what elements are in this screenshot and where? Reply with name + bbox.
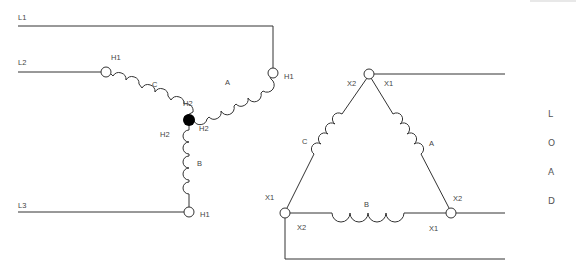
load-letter-l: L (548, 109, 553, 119)
load-letter-o: O (548, 138, 555, 148)
terminal-delta-top (364, 69, 374, 79)
line-label-l1: L1 (18, 13, 26, 22)
label-primary-a: A (225, 78, 230, 87)
transformer-diagram: L1 L2 L3 H1 H1 H1 H2 H2 H2 C A B (0, 0, 576, 272)
neutral-node (183, 114, 195, 126)
label-primary-c: C (152, 80, 158, 89)
line-label-l3: L3 (18, 201, 26, 210)
wire-load-3 (285, 218, 505, 259)
terminal-b-h1 (184, 207, 194, 217)
load-letter-a: A (548, 167, 555, 177)
label-right-x2: X2 (453, 194, 462, 203)
label-left-x2: X2 (297, 223, 306, 232)
label-top-x1: X1 (384, 79, 393, 88)
label-secondary-b: B (364, 200, 369, 209)
secondary-coil-c (287, 78, 367, 208)
terminal-delta-bottom-left (280, 208, 290, 218)
wire-l1 (18, 26, 273, 69)
label-right-x1: X1 (429, 224, 438, 233)
label-primary-b: B (197, 159, 202, 168)
primary-coil-a (194, 77, 274, 125)
line-label-l2: L2 (18, 58, 26, 67)
primary-coil-b (183, 125, 189, 207)
label-a-h2: H2 (199, 124, 209, 133)
terminal-a-h1 (268, 68, 278, 78)
label-b-h1: H1 (200, 210, 210, 219)
load-letter-d: D (548, 196, 555, 206)
label-top-x2: X2 (347, 79, 356, 88)
terminal-c-h1 (101, 67, 111, 77)
label-secondary-c: C (302, 137, 308, 146)
label-left-x1: X1 (265, 193, 274, 202)
terminal-delta-bottom-right (446, 208, 456, 218)
label-c-h2: H2 (183, 99, 193, 108)
label-c-h1: H1 (111, 53, 121, 62)
label-secondary-a: A (429, 139, 434, 148)
secondary-coil-a (371, 78, 449, 208)
label-a-h1: H1 (284, 72, 294, 81)
label-b-h2: H2 (160, 130, 170, 139)
secondary-coil-b (290, 213, 446, 222)
